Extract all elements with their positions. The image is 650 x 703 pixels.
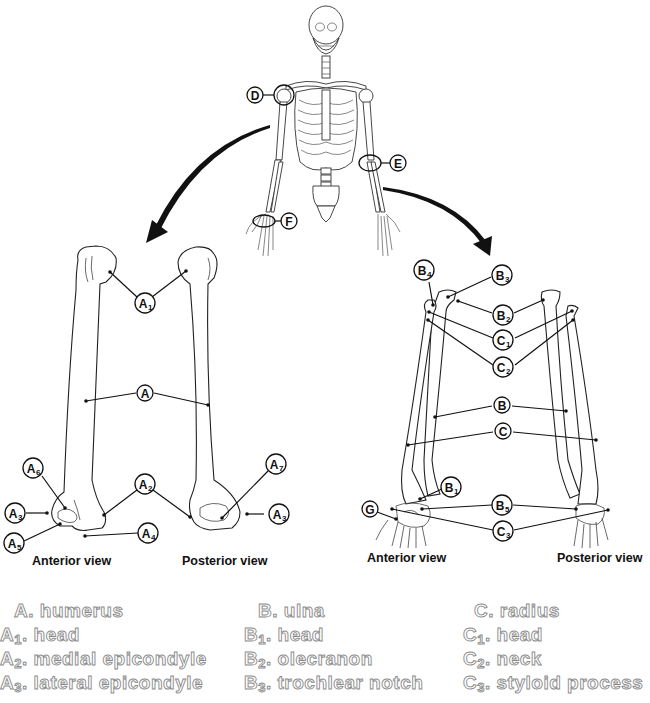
humerus-anterior-view-label: Anterior view <box>32 554 111 568</box>
callout-B4: B 4 <box>414 260 434 280</box>
svg-text:A: A <box>139 297 148 311</box>
svg-text:C: C <box>497 361 506 375</box>
svg-text:2: 2 <box>506 315 511 324</box>
svg-text:1: 1 <box>506 340 511 349</box>
svg-text:B: B <box>496 269 505 283</box>
svg-text:5: 5 <box>17 543 22 552</box>
svg-text:C: C <box>497 334 506 348</box>
callout-A1: A 1 <box>135 293 155 313</box>
callout-A6: A 6 <box>23 458 43 478</box>
svg-text:A: A <box>142 527 151 541</box>
callout-B3: B 3 <box>492 265 512 285</box>
arrow-to-forearm <box>383 187 492 256</box>
svg-text:A: A <box>273 508 282 522</box>
svg-text:3: 3 <box>282 514 287 523</box>
svg-text:3: 3 <box>506 531 511 540</box>
svg-text:F: F <box>285 215 292 229</box>
callout-B2: B 2 <box>493 305 513 325</box>
callout-B1: B 1 <box>441 477 461 497</box>
svg-text:A: A <box>139 478 148 492</box>
callout-A3-right: A 3 <box>269 504 289 524</box>
legend-item-radius-head: C1. head <box>463 624 543 647</box>
full-skeleton <box>246 6 400 256</box>
svg-text:B: B <box>418 264 427 278</box>
svg-text:5: 5 <box>505 505 510 514</box>
svg-text:1: 1 <box>454 487 459 496</box>
legend-item-humerus: A. humerus <box>14 600 124 622</box>
legend-item-ulna: B. ulna <box>258 600 325 622</box>
callout-A5: A 5 <box>4 533 24 553</box>
svg-text:6: 6 <box>36 468 41 477</box>
callout-A3-left: A 3 <box>5 503 25 523</box>
callout-E: E <box>390 155 406 171</box>
callout-C: C <box>495 423 511 439</box>
callout-F: F <box>281 213 297 229</box>
svg-text:C: C <box>497 525 506 539</box>
svg-text:B: B <box>497 309 506 323</box>
legend-item-radius: C. radius <box>474 600 560 622</box>
svg-text:A: A <box>9 507 18 521</box>
callout-A2: A 2 <box>135 474 155 494</box>
callout-C1: C 1 <box>493 330 513 350</box>
callout-G: G <box>362 501 378 517</box>
anatomy-diagram: D E F <box>0 0 650 703</box>
legend: A. humerus A1. head A2. medial epicondyl… <box>0 600 650 703</box>
callout-B5: B 5 <box>492 495 512 515</box>
svg-text:B: B <box>496 499 505 513</box>
legend-item-medial-epicondyle: A2. medial epicondyle <box>0 648 207 671</box>
svg-text:2: 2 <box>148 484 153 493</box>
svg-text:G: G <box>365 503 374 517</box>
humerus-posterior <box>178 247 240 530</box>
svg-text:A: A <box>270 458 279 472</box>
callout-A7: A 7 <box>266 454 286 474</box>
callout-B: B <box>494 397 510 413</box>
forearm-posterior-view-label: Posterior view <box>557 551 643 565</box>
legend-item-trochlear-notch: B3. trochlear notch <box>244 672 423 695</box>
svg-text:A: A <box>8 537 17 551</box>
svg-text:C: C <box>499 425 508 439</box>
callout-A4: A 4 <box>138 523 158 543</box>
legend-item-neck: C2. neck <box>463 648 542 671</box>
humerus-anterior <box>52 246 117 531</box>
svg-text:B: B <box>498 399 507 413</box>
callout-D: D <box>247 87 263 103</box>
svg-text:E: E <box>394 157 402 171</box>
svg-text:3: 3 <box>18 513 23 522</box>
callout-C3: C 3 <box>493 521 513 541</box>
svg-text:A: A <box>27 462 36 476</box>
svg-text:D: D <box>251 89 260 103</box>
svg-text:3: 3 <box>505 275 510 284</box>
legend-item-styloid-process: C3. styloid process <box>463 672 643 695</box>
callout-C2: C 2 <box>493 357 513 377</box>
svg-text:1: 1 <box>148 303 153 312</box>
svg-text:B: B <box>445 481 454 495</box>
humerus-posterior-view-label: Posterior view <box>182 554 268 568</box>
legend-item-ulna-head: B1. head <box>244 624 324 647</box>
svg-text:4: 4 <box>151 533 156 542</box>
legend-item-lateral-epicondyle: A3. lateral epicondyle <box>0 672 203 695</box>
callout-A: A <box>137 385 153 401</box>
svg-text:7: 7 <box>279 464 284 473</box>
svg-text:4: 4 <box>427 270 432 279</box>
forearm-anterior-view-label: Anterior view <box>367 551 446 565</box>
diagram-canvas: D E F <box>0 0 650 600</box>
legend-item-humerus-head: A1. head <box>0 624 80 647</box>
svg-text:A: A <box>141 387 150 401</box>
svg-text:2: 2 <box>506 367 511 376</box>
legend-item-olecranon: B2. olecranon <box>244 648 373 671</box>
forearm-anterior <box>376 290 456 548</box>
arrow-to-humerus <box>146 125 270 243</box>
